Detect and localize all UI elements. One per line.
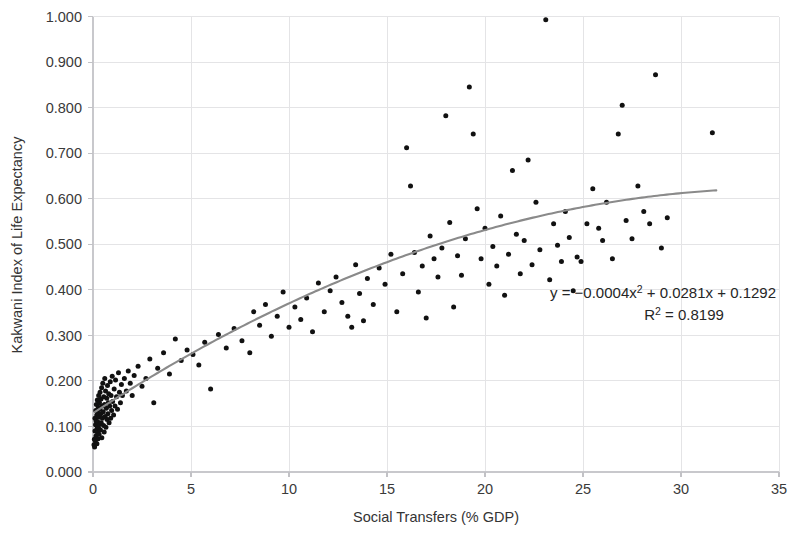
- data-point: [590, 186, 595, 191]
- data-point: [459, 273, 464, 278]
- data-point: [316, 280, 321, 285]
- data-point: [647, 221, 652, 226]
- y-tick-label: 0.300: [46, 328, 82, 344]
- data-point: [596, 226, 601, 231]
- data-point: [610, 256, 615, 261]
- x-tick-label: 25: [575, 481, 591, 497]
- data-point: [383, 282, 388, 287]
- data-point: [322, 309, 327, 314]
- y-tick-label: 0.900: [46, 54, 82, 70]
- data-point: [298, 317, 303, 322]
- data-point: [447, 220, 452, 225]
- data-point: [118, 400, 123, 405]
- data-point: [104, 396, 109, 401]
- data-point: [533, 200, 538, 205]
- data-point: [400, 271, 405, 276]
- y-tick-label: 1.000: [46, 9, 82, 25]
- data-point: [494, 264, 499, 269]
- data-point: [132, 373, 137, 378]
- data-point: [216, 332, 221, 337]
- y-tick-label: 0.800: [46, 100, 82, 116]
- data-point: [345, 314, 350, 319]
- data-point: [659, 245, 664, 250]
- data-point: [115, 407, 120, 412]
- chart-canvas: 0.0000.1000.2000.3000.4000.5000.6000.700…: [0, 0, 808, 541]
- data-point: [620, 103, 625, 108]
- data-point: [196, 362, 201, 367]
- data-point: [559, 259, 564, 264]
- y-tick-label: 0.600: [46, 191, 82, 207]
- data-point: [394, 309, 399, 314]
- y-tick-label: 0.500: [46, 236, 82, 252]
- data-point: [567, 235, 572, 240]
- data-point: [408, 183, 413, 188]
- data-point: [126, 368, 131, 373]
- data-point: [140, 384, 145, 389]
- data-point: [239, 338, 244, 343]
- data-point: [109, 393, 114, 398]
- data-point: [167, 372, 172, 377]
- data-point: [328, 288, 333, 293]
- data-point: [116, 370, 121, 375]
- data-point: [479, 256, 484, 261]
- data-point: [575, 255, 580, 260]
- y-tick-label: 0.400: [46, 282, 82, 298]
- data-point: [435, 275, 440, 280]
- data-point: [111, 413, 116, 418]
- data-point: [551, 221, 556, 226]
- x-tick-label: 20: [477, 481, 493, 497]
- data-point: [710, 130, 715, 135]
- data-point: [122, 376, 127, 381]
- data-point: [151, 400, 156, 405]
- data-point: [128, 381, 133, 386]
- data-point: [518, 271, 523, 276]
- data-point: [100, 381, 105, 386]
- data-point: [147, 357, 152, 362]
- y-tick-label: 0.100: [46, 419, 82, 435]
- data-point: [102, 429, 107, 434]
- y-axis-title: Kakwani Index of Life Expectancy: [9, 136, 25, 354]
- data-point: [353, 262, 358, 267]
- data-point: [365, 276, 370, 281]
- trendline-equation-label: y = −0.0004x2 + 0.0281x + 0.1292: [550, 283, 776, 301]
- data-point: [130, 393, 135, 398]
- data-point: [522, 238, 527, 243]
- data-point: [281, 290, 286, 295]
- data-point: [108, 379, 113, 384]
- data-point: [530, 262, 535, 267]
- scatter-chart: 0.0000.1000.2000.3000.4000.5000.6000.700…: [0, 0, 808, 541]
- data-point: [251, 309, 256, 314]
- data-point: [208, 387, 213, 392]
- data-point: [112, 387, 117, 392]
- data-point: [224, 346, 229, 351]
- x-axis-title: Social Transfers (% GDP): [353, 509, 519, 525]
- y-tick-label: 0.000: [46, 464, 82, 480]
- x-tick-label: 10: [281, 481, 297, 497]
- data-point: [475, 206, 480, 211]
- data-point: [361, 318, 366, 323]
- equation-suffix: + 0.0281x + 0.1292: [643, 284, 776, 301]
- data-point: [616, 132, 621, 137]
- data-point: [506, 252, 511, 257]
- data-point: [173, 336, 178, 341]
- data-point: [257, 323, 262, 328]
- trendline: [95, 190, 716, 412]
- data-point: [99, 385, 104, 390]
- data-point: [102, 376, 107, 381]
- data-point: [432, 256, 437, 261]
- data-point: [514, 232, 519, 237]
- data-point: [263, 302, 268, 307]
- data-point: [388, 252, 393, 257]
- data-point: [310, 329, 315, 334]
- data-point: [119, 382, 124, 387]
- data-point: [443, 113, 448, 118]
- data-point: [185, 347, 190, 352]
- data-point: [486, 282, 491, 287]
- data-point: [98, 390, 103, 395]
- x-tick-label: 5: [187, 481, 195, 497]
- y-tick-label: 0.700: [46, 145, 82, 161]
- data-point: [543, 17, 548, 22]
- x-tick-label: 0: [89, 481, 97, 497]
- data-point: [371, 302, 376, 307]
- r2-value: = 0.8199: [661, 306, 724, 323]
